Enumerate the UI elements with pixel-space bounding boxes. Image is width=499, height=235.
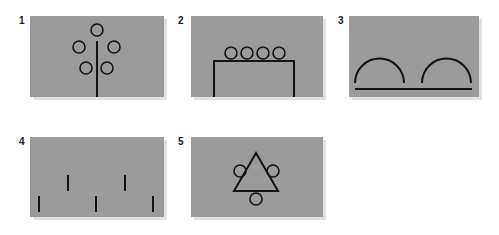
- panel-5-triangle: [191, 137, 323, 217]
- panel-label-1: 1: [19, 16, 25, 26]
- panel-2-table: [191, 16, 323, 97]
- arcs-on-line-icon: [349, 16, 479, 97]
- panel-3-arcs: [349, 16, 479, 97]
- panel-1-tree: [30, 16, 164, 97]
- panel-label-5: 5: [178, 137, 184, 147]
- table-with-circles-icon: [191, 16, 323, 97]
- panel-label-2: 2: [178, 16, 184, 26]
- panel-label-3: 3: [338, 16, 344, 26]
- panel-4-ticks: [30, 137, 164, 217]
- tree-figure-icon: [30, 16, 164, 97]
- triangle-with-circles-icon: [191, 137, 323, 217]
- panel-label-4: 4: [19, 137, 25, 147]
- staggered-ticks-icon: [30, 137, 164, 217]
